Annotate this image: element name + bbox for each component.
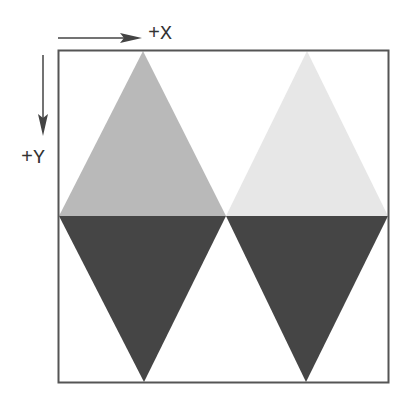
x-axis-label: +X (148, 22, 172, 45)
upper-right-triangle (226, 51, 388, 216)
lower-left-triangle (59, 216, 226, 382)
x-axis-arrow-icon (58, 33, 142, 43)
y-axis-arrow-icon (38, 55, 48, 136)
y-axis-label: +Y (21, 146, 45, 169)
lower-right-triangle (226, 216, 388, 382)
upper-left-triangle (59, 51, 226, 216)
diagram-canvas: +X +Y (0, 0, 408, 403)
